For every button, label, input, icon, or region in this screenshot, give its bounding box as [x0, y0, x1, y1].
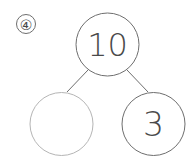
- connector-left: [67, 70, 88, 92]
- whole-value: 10: [87, 26, 128, 64]
- problem-number: ④: [20, 17, 33, 33]
- connector-right: [127, 70, 148, 92]
- number-bond-diagram: ④ 10 3: [0, 0, 196, 165]
- part-left-answer-circle[interactable]: [30, 93, 93, 156]
- part-right-value: 3: [143, 105, 164, 144]
